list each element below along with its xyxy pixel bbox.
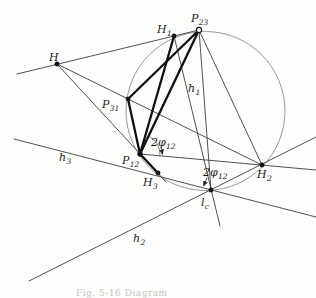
label-h1: h1 — [188, 82, 200, 97]
label-P23-subscript: 23 — [198, 18, 209, 27]
label-H1: H1 — [156, 23, 172, 38]
label-P12-main: P — [121, 154, 130, 167]
label-phi12-a-subscript: 12 — [166, 142, 176, 151]
point-H3 — [156, 171, 160, 175]
label-h1-subscript: 1 — [195, 88, 200, 97]
point-H1 — [172, 34, 176, 38]
label-H1-subscript: 1 — [167, 29, 172, 38]
label-h2-subscript: 2 — [139, 238, 145, 247]
segment-P12-H3 — [140, 154, 158, 173]
leader-arrow-2phi12-second — [204, 178, 208, 186]
label-H3: H3 — [142, 176, 158, 191]
figure-page: HH1P23P31P12H3H2lch1h2h32φ122φ12 Fig. 5-… — [0, 0, 316, 298]
label-P12-subscript: 12 — [130, 160, 140, 169]
point-lc — [209, 188, 213, 192]
label-H: H — [48, 51, 59, 64]
leader-arrows-layer — [161, 147, 207, 186]
label-lc: lc — [201, 196, 210, 211]
label-h1-main: h — [188, 82, 195, 95]
label-P23: P23 — [190, 12, 208, 27]
label-lc-subscript: c — [205, 202, 210, 211]
label-H2-main: H — [256, 168, 267, 181]
label-P31-subscript: 31 — [110, 104, 120, 113]
points-layer — [55, 27, 264, 192]
label-H3-subscript: 3 — [153, 182, 158, 191]
label-phi12-b-main: 2φ — [202, 166, 218, 179]
label-phi12-a: 2φ12 — [150, 136, 176, 151]
label-H1-main: H — [156, 23, 167, 36]
labels-layer: HH1P23P31P12H3H2lch1h2h32φ122φ12 — [48, 12, 272, 247]
thick-lines-layer — [128, 30, 199, 173]
label-phi12-a-main: 2φ — [150, 136, 166, 149]
point-H2 — [260, 163, 264, 167]
label-H3-main: H — [142, 176, 153, 189]
label-H-main: H — [48, 51, 59, 64]
label-phi12-b: 2φ12 — [202, 166, 228, 181]
line-P12-H2-extended — [140, 154, 316, 170]
label-P23-main: P — [190, 12, 199, 25]
label-P12: P12 — [121, 154, 139, 169]
label-h2-main: h — [133, 232, 140, 245]
pole-triangle-diagram: HH1P23P31P12H3H2lch1h2h32φ122φ12 — [0, 0, 316, 298]
label-P31: P31 — [101, 98, 119, 113]
line-h1 — [174, 36, 220, 226]
figure-caption: Fig. 5-16 Diagram — [0, 288, 316, 298]
point-P23 — [196, 27, 201, 32]
line-h2 — [29, 137, 316, 281]
point-P12 — [138, 152, 143, 157]
label-P31-main: P — [101, 98, 110, 111]
label-h2: h2 — [133, 232, 145, 247]
label-H2: H2 — [256, 168, 272, 183]
label-h3-main: h — [59, 151, 66, 164]
label-H2-subscript: 2 — [266, 174, 272, 183]
label-phi12-b-subscript: 12 — [218, 172, 228, 181]
point-P31 — [126, 97, 130, 101]
line-P23-H2 — [199, 30, 262, 165]
label-h3-subscript: 3 — [66, 157, 71, 166]
